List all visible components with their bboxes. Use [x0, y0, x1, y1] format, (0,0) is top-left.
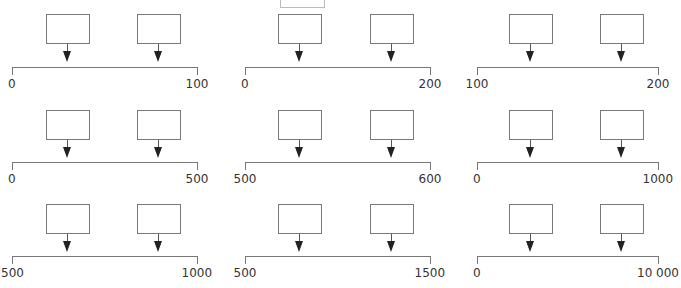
end-label: 500: [186, 172, 209, 186]
start-label: 0: [241, 77, 249, 91]
answer-box[interactable]: [600, 14, 644, 44]
answer-box[interactable]: [46, 110, 90, 140]
arrow-down-icon: [526, 147, 534, 158]
start-label: 500: [234, 172, 257, 186]
answer-box[interactable]: [137, 204, 181, 234]
end-tick: [197, 67, 198, 75]
arrow-down-icon: [63, 147, 71, 158]
arrow-down-icon: [154, 147, 162, 158]
start-tick: [245, 67, 246, 75]
start-label: 0: [8, 77, 16, 91]
answer-box[interactable]: [137, 110, 181, 140]
end-tick: [658, 256, 659, 264]
answer-box[interactable]: [600, 204, 644, 234]
start-tick: [12, 67, 13, 75]
arrow-down-icon: [387, 51, 395, 62]
end-tick: [658, 67, 659, 75]
start-label: 100: [466, 77, 489, 91]
answer-box[interactable]: [600, 110, 644, 140]
number-line-axis: [12, 162, 198, 163]
arrow-down-icon: [617, 51, 625, 62]
start-tick: [12, 162, 13, 170]
arrow-down-icon: [295, 241, 303, 252]
arrow-down-icon: [387, 147, 395, 158]
cropped-top-fragment: [280, 0, 325, 8]
number-line-axis: [245, 162, 431, 163]
number-line-axis: [477, 256, 659, 257]
start-label: 0: [473, 266, 481, 280]
arrow-down-icon: [295, 51, 303, 62]
number-line-worksheet: 0100020010020005005006000100050010005001…: [0, 0, 681, 288]
end-label: 600: [419, 172, 442, 186]
answer-box[interactable]: [370, 110, 414, 140]
start-label: 500: [234, 266, 257, 280]
start-tick: [245, 256, 246, 264]
answer-box[interactable]: [509, 14, 553, 44]
answer-box[interactable]: [46, 204, 90, 234]
number-line-axis: [245, 256, 431, 257]
end-label: 100: [186, 77, 209, 91]
end-tick: [430, 162, 431, 170]
number-line-axis: [12, 256, 198, 257]
answer-box[interactable]: [278, 14, 322, 44]
number-line-axis: [477, 67, 659, 68]
end-tick: [197, 256, 198, 264]
end-label: 200: [647, 77, 670, 91]
answer-box[interactable]: [278, 110, 322, 140]
answer-box[interactable]: [509, 110, 553, 140]
answer-box[interactable]: [46, 14, 90, 44]
arrow-down-icon: [617, 147, 625, 158]
end-tick: [197, 162, 198, 170]
end-label: 200: [419, 77, 442, 91]
end-label: 10 000: [637, 266, 679, 280]
number-line-axis: [477, 162, 659, 163]
answer-box[interactable]: [370, 14, 414, 44]
start-tick: [477, 256, 478, 264]
arrow-down-icon: [387, 241, 395, 252]
start-tick: [477, 162, 478, 170]
arrow-down-icon: [526, 241, 534, 252]
answer-box[interactable]: [370, 204, 414, 234]
end-tick: [658, 162, 659, 170]
arrow-down-icon: [154, 241, 162, 252]
arrow-down-icon: [63, 51, 71, 62]
arrow-down-icon: [526, 51, 534, 62]
arrow-down-icon: [63, 241, 71, 252]
number-line-axis: [245, 67, 431, 68]
start-label: 500: [1, 266, 24, 280]
start-tick: [477, 67, 478, 75]
arrow-down-icon: [617, 241, 625, 252]
number-line-axis: [12, 67, 198, 68]
end-label: 1000: [643, 172, 674, 186]
end-label: 1000: [182, 266, 213, 280]
answer-box[interactable]: [509, 204, 553, 234]
arrow-down-icon: [295, 147, 303, 158]
start-label: 0: [473, 172, 481, 186]
end-label: 1500: [415, 266, 446, 280]
arrow-down-icon: [154, 51, 162, 62]
end-tick: [430, 67, 431, 75]
answer-box[interactable]: [278, 204, 322, 234]
start-tick: [245, 162, 246, 170]
start-tick: [12, 256, 13, 264]
answer-box[interactable]: [137, 14, 181, 44]
start-label: 0: [8, 172, 16, 186]
end-tick: [430, 256, 431, 264]
